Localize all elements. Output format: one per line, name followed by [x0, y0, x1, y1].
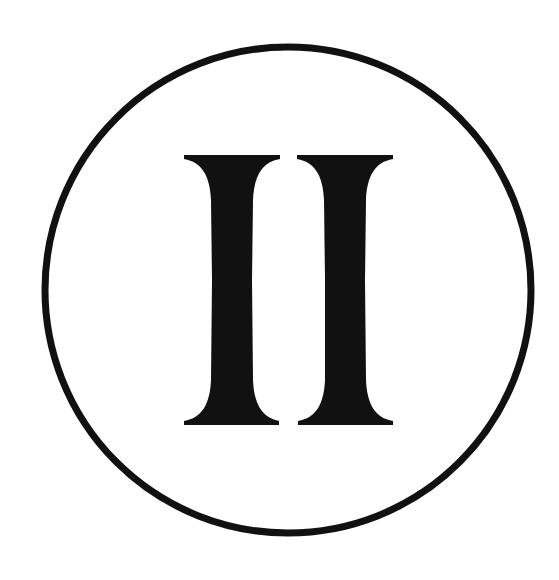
numeral-i-glyph-right — [297, 155, 393, 425]
emblem-graphic — [0, 0, 559, 580]
numeral-i-glyph-left — [184, 155, 280, 425]
roman-numeral-emblem: II — [0, 0, 559, 580]
outer-circle-ring — [45, 47, 531, 533]
